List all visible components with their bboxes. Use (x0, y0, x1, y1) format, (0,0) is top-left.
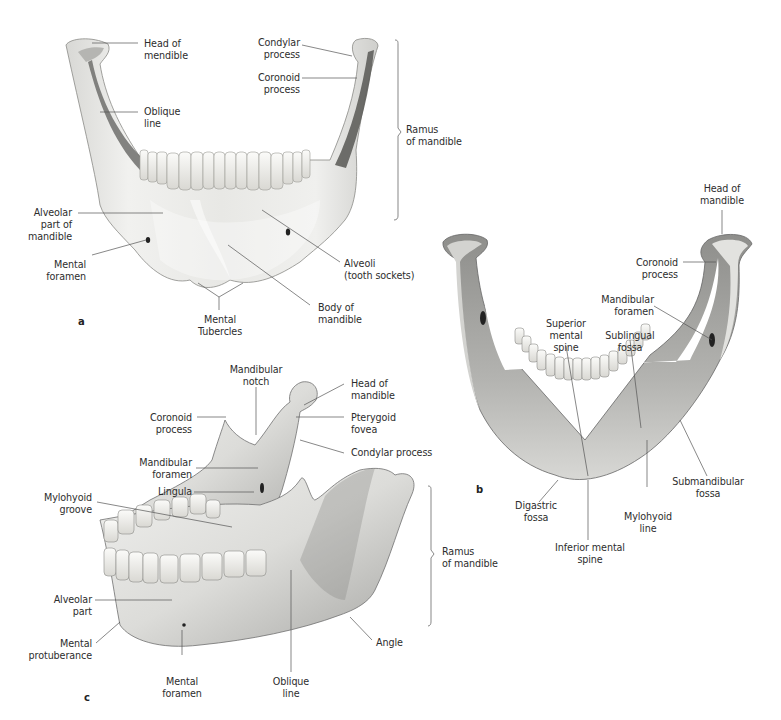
label-b-mandibular-foramen: Mandibular foramen (594, 294, 654, 318)
label-b-digastric-fossa: Digastric fossa (508, 500, 564, 524)
label-c-mandibular-notch: Mandibular notch (226, 364, 286, 388)
panel-letter-a: a (78, 316, 85, 327)
label-a-head-of-mandible: Head of mendible (144, 38, 188, 62)
label-b-head-of-mandible: Head of mandible (700, 183, 744, 207)
label-c-mental-protuberance: Mental protuberance (20, 638, 92, 662)
label-c-ramus-of-mandible: Ramus of mandible (442, 546, 498, 570)
label-a-alveoli: Alveoli (tooth sockets) (344, 258, 414, 282)
label-c-lingula: Lingula (140, 486, 192, 498)
label-c-mental-foramen: Mental foramen (156, 676, 208, 700)
label-c-condylar-process: Condylar process (351, 447, 432, 459)
label-c-alveolar-part: Alveolar part (38, 594, 92, 618)
panel-a-bone (66, 38, 378, 287)
label-b-mylohyoid-line: Mylohyoid line (618, 511, 678, 535)
label-b-submandibular-fossa: Submandibular fossa (668, 476, 748, 500)
label-c-coronoid-process: Coronoid process (136, 412, 192, 436)
label-c-angle: Angle (376, 637, 403, 649)
label-a-condylar-process: Condylar process (250, 37, 300, 61)
label-a-ramus-of-mandible: Ramus of mandible (406, 124, 462, 148)
figure-artwork (0, 0, 781, 720)
panel-b-bone (443, 234, 752, 479)
label-a-oblique-line: Oblique line (144, 106, 180, 130)
label-a-coronoid-process: Coronoid process (250, 72, 300, 96)
panel-letter-b: b (476, 484, 483, 495)
label-c-oblique-line: Oblique line (268, 676, 314, 700)
label-b-superior-mental-spine: Superior mental spine (538, 318, 594, 354)
label-c-pterygoid-fovea: Pterygoid fovea (351, 412, 396, 436)
label-c-mandibular-foramen: Mandibular foramen (128, 457, 192, 481)
label-a-body-of-mandible: Body of mandible (318, 302, 362, 326)
label-a-mental-foramen: Mental foramen (30, 259, 86, 283)
label-b-inferior-mental-spine: Inferior mental spine (548, 542, 632, 566)
label-c-head-of-mandible: Head of mandible (351, 378, 395, 402)
label-b-coronoid-process: Coronoid process (626, 257, 678, 281)
label-a-alveolar-part: Alveolar part of mandible (20, 207, 72, 243)
label-a-mental-tubercles: Mental Tubercles (192, 314, 248, 338)
mandible-figure: Head of mendible Oblique line Condylar p… (0, 0, 781, 720)
label-c-mylohyoid-groove: Mylohyoid groove (30, 492, 92, 516)
panel-letter-c: c (84, 692, 90, 703)
label-b-sublingual-fossa: Sublingual fossa (600, 330, 660, 354)
